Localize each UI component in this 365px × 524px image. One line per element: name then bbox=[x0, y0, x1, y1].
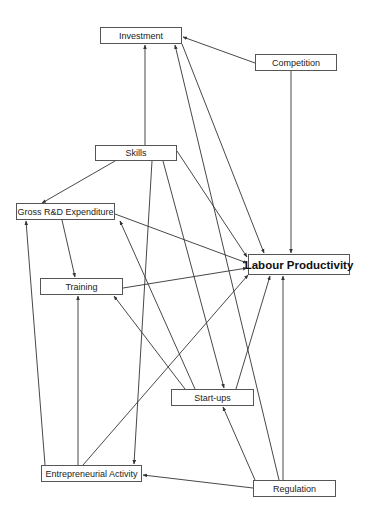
node-entrepreneurial-activity: Entrepreneurial Activity bbox=[41, 465, 142, 482]
edge-skills-to-entrepreneurial bbox=[134, 161, 152, 464]
node-label: Entrepreneurial Activity bbox=[45, 469, 137, 479]
node-label: Gross R&D Expenditure bbox=[17, 207, 113, 217]
node-gross-rd-expenditure: Gross R&D Expenditure bbox=[16, 203, 115, 220]
edge-investment-to-labour_productivity bbox=[182, 44, 264, 253]
edge-gross_rd-to-labour_productivity bbox=[115, 214, 247, 263]
node-skills: Skills bbox=[95, 145, 177, 161]
edge-regulation-to-startups bbox=[223, 407, 255, 480]
node-label: Labour Productivity bbox=[245, 259, 354, 271]
edge-startups-to-gross_rd bbox=[120, 221, 195, 389]
edge-regulation-to-entrepreneurial bbox=[143, 475, 253, 488]
node-label: Regulation bbox=[273, 484, 316, 494]
edge-competition-to-investment bbox=[183, 37, 255, 63]
node-investment: Investment bbox=[100, 27, 182, 44]
node-labour-productivity: Labour Productivity bbox=[248, 254, 350, 275]
edge-gross_rd-to-training bbox=[62, 220, 75, 277]
edge-training-to-labour_productivity bbox=[123, 268, 247, 288]
node-label: Competition bbox=[272, 58, 320, 68]
node-label: Investment bbox=[119, 31, 163, 41]
edge-entrepreneurial-to-gross_rd bbox=[26, 221, 45, 465]
edge-skills-to-gross_rd bbox=[42, 161, 115, 203]
node-training: Training bbox=[40, 278, 123, 295]
edge-entrepreneurial-to-labour_productivity bbox=[83, 275, 248, 465]
node-label: Skills bbox=[125, 148, 146, 158]
node-start-ups: Start-ups bbox=[171, 389, 254, 406]
causal-diagram: Investment Competition Skills Gross R&D … bbox=[0, 0, 365, 524]
node-label: Training bbox=[65, 282, 97, 292]
edge-skills-to-startups bbox=[163, 161, 224, 388]
node-regulation: Regulation bbox=[253, 480, 336, 497]
node-label: Start-ups bbox=[194, 393, 231, 403]
node-competition: Competition bbox=[255, 54, 337, 71]
